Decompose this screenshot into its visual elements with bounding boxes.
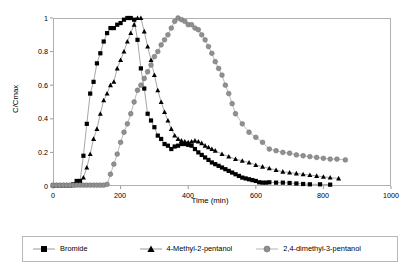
chart-svg (0, 0, 420, 215)
y-tick-label-1: 1 (28, 15, 48, 22)
series-line-0 (53, 18, 330, 185)
legend-item-4-methyl-2-pentanol[interactable]: 4-Methyl-2-pentanol (140, 244, 233, 254)
y-tick-label-0_6: 0.6 (28, 82, 48, 89)
x-axis-title: Time (min) (0, 197, 420, 205)
legend-label-2-4-dimethyl-3-pentanol: 2,4-dimethyl-3-pentanol (283, 245, 361, 252)
series-markers-0 (51, 16, 332, 187)
y-tick-label-0_4: 0.4 (28, 115, 48, 122)
legend-triangle-marker-icon (140, 244, 162, 254)
series-line-1 (53, 18, 339, 185)
series-markers-1 (51, 15, 342, 187)
chart-figure: 1 0.8 0.6 0.4 0.2 0 0 200 400 600 800 10… (0, 0, 420, 272)
legend-label-4-methyl-2-pentanol: 4-Methyl-2-pentanol (167, 245, 233, 252)
legend-square-marker-icon (33, 244, 55, 254)
legend-item-2-4-dimethyl-3-pentanol[interactable]: 2,4-dimethyl-3-pentanol (256, 244, 361, 254)
y-tick-label-0: 0 (28, 183, 48, 190)
series-markers-2 (51, 16, 348, 188)
y-axis-title: C/Cmax (12, 69, 20, 129)
series-line-2 (53, 18, 345, 185)
legend-circle-marker-icon (256, 244, 278, 254)
chart-legend: Bromide 4-Methyl-2-pentanol 2,4-dimethyl… (22, 236, 398, 262)
legend-label-bromide: Bromide (60, 245, 88, 252)
legend-item-bromide[interactable]: Bromide (33, 244, 88, 254)
y-tick-label-0_8: 0.8 (28, 48, 48, 55)
y-tick-label-0_2: 0.2 (28, 149, 48, 156)
chart-plot-area: 1 0.8 0.6 0.4 0.2 0 0 200 400 600 800 10… (0, 0, 420, 215)
